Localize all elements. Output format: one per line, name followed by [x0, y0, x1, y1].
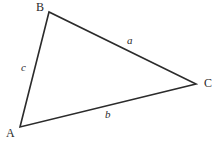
vertex-label-b: B: [36, 1, 44, 13]
vertex-label-a: A: [6, 127, 15, 139]
side-label-b: b: [105, 109, 111, 120]
triangle-diagram-canvas: A B C a b c: [0, 0, 223, 147]
side-label-c: c: [21, 62, 26, 73]
side-label-a: a: [127, 35, 133, 46]
triangle-shape: [0, 0, 223, 147]
vertex-label-c: C: [204, 77, 212, 89]
